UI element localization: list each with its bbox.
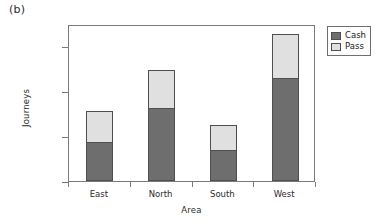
legend-swatch-cash-icon — [331, 32, 341, 40]
bar-segment-cash — [86, 142, 113, 181]
bar-stack — [148, 70, 175, 181]
bar-stack — [210, 125, 237, 182]
x-tick-label-south: South — [210, 189, 235, 199]
x-axis-label: Area — [68, 205, 315, 215]
bar-segment-cash — [148, 108, 175, 181]
bar-segment-pass — [210, 125, 237, 150]
x-tick-mark — [315, 182, 316, 187]
panel-label: (b) — [9, 3, 25, 16]
bar-group-south — [210, 24, 237, 181]
x-tick-label-north: North — [149, 189, 173, 199]
bar-segment-pass — [148, 70, 175, 109]
bar-group-north — [148, 24, 175, 181]
x-tick-mark — [68, 182, 69, 187]
legend-item-pass[interactable]: Pass — [331, 41, 366, 52]
legend-label: Pass — [345, 41, 364, 52]
x-tick-label-east: East — [90, 189, 108, 199]
bar-segment-pass — [272, 34, 299, 78]
bar-stack — [86, 111, 113, 181]
y-axis-label: Journeys — [21, 78, 31, 138]
x-tick-mark — [130, 182, 131, 187]
x-tick-mark — [192, 182, 193, 187]
bars-layer — [69, 26, 314, 181]
bar-segment-cash — [210, 150, 237, 181]
x-tick-mark — [253, 182, 254, 187]
legend: CashPass — [327, 26, 371, 56]
legend-swatch-pass-icon — [331, 43, 341, 51]
plot-area — [68, 25, 315, 182]
bar-group-east — [86, 24, 113, 181]
bar-segment-cash — [272, 78, 299, 181]
x-tick-label-west: West — [274, 189, 295, 199]
bar-segment-pass — [86, 111, 113, 142]
bar-stack — [272, 34, 299, 181]
legend-item-cash[interactable]: Cash — [331, 30, 366, 41]
bar-group-west — [272, 24, 299, 181]
legend-label: Cash — [345, 30, 366, 41]
